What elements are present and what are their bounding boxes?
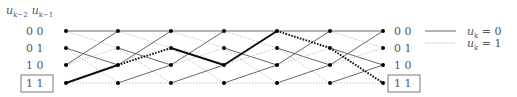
highlighted-path — [66, 31, 383, 83]
trellis-node — [275, 63, 279, 67]
trellis-node — [116, 63, 120, 67]
trellis-edge — [330, 48, 383, 65]
trellis-node — [328, 46, 332, 50]
path-segment — [224, 31, 277, 65]
trellis-edge — [171, 65, 224, 83]
trellis-node — [169, 81, 173, 85]
trellis-node — [222, 81, 226, 85]
path-segment — [66, 65, 118, 83]
trellis-node — [64, 81, 68, 85]
trellis-node — [381, 81, 385, 85]
trellis-edge — [224, 48, 277, 83]
left-state-label-01: 0 1 — [26, 42, 44, 55]
trellis-node — [116, 46, 120, 50]
left-state-label-00: 0 0 — [26, 25, 44, 38]
trellis-node — [116, 29, 120, 33]
right-state-label-01: 0 1 — [394, 42, 412, 55]
trellis-edge — [118, 48, 171, 83]
state-header: uk−2uk−1 — [6, 4, 53, 19]
trellis-node — [275, 81, 279, 85]
trellis-node — [64, 46, 68, 50]
trellis-edge — [330, 31, 383, 65]
trellis-diagram: uk−2uk−1 0 0 0 1 1 0 1 1 0 0 0 1 1 0 1 1… — [0, 0, 517, 97]
trellis-edge — [66, 48, 118, 65]
left-state-label-11: 1 1 — [26, 77, 44, 90]
trellis-node — [381, 46, 385, 50]
trellis-node — [64, 29, 68, 33]
trellis-edge — [66, 31, 118, 48]
left-state-label-10: 1 0 — [26, 59, 44, 72]
legend-label-dotted: uk = 1 — [467, 37, 502, 52]
right-state-label-10: 1 0 — [394, 59, 412, 72]
trellis-node — [169, 29, 173, 33]
trellis-edge — [171, 31, 224, 65]
trellis-edge — [277, 48, 330, 65]
trellis-node — [222, 29, 226, 33]
trellis-edge — [277, 65, 330, 83]
trellis-node — [169, 46, 173, 50]
trellis-edges — [66, 31, 383, 83]
trellis-node — [275, 29, 279, 33]
trellis-node — [328, 81, 332, 85]
trellis-node — [275, 46, 279, 50]
trellis-node — [222, 46, 226, 50]
path-segment — [277, 31, 330, 48]
trellis-node — [328, 29, 332, 33]
right-state-label-11: 1 1 — [394, 77, 412, 90]
trellis-node — [328, 63, 332, 67]
trellis-node — [222, 63, 226, 67]
trellis-edge — [171, 31, 224, 48]
trellis-edge — [224, 65, 277, 83]
legend: uk = 0 uk = 1 — [425, 25, 502, 52]
trellis-edge — [277, 48, 330, 83]
trellis-edge — [118, 65, 171, 83]
trellis-edge — [224, 31, 277, 48]
trellis-edge — [118, 31, 171, 48]
trellis-edge — [330, 65, 383, 83]
trellis-node — [381, 29, 385, 33]
trellis-node — [169, 63, 173, 67]
trellis-edge — [118, 31, 171, 65]
trellis-node — [64, 63, 68, 67]
trellis-edge — [171, 48, 224, 83]
right-state-label-00: 0 0 — [394, 25, 412, 38]
trellis-node — [381, 63, 385, 67]
trellis-edge — [330, 31, 383, 48]
trellis-edge — [66, 31, 118, 65]
trellis-edge — [277, 31, 330, 65]
trellis-node — [116, 81, 120, 85]
trellis-nodes — [64, 29, 385, 85]
trellis-edge — [66, 48, 118, 83]
